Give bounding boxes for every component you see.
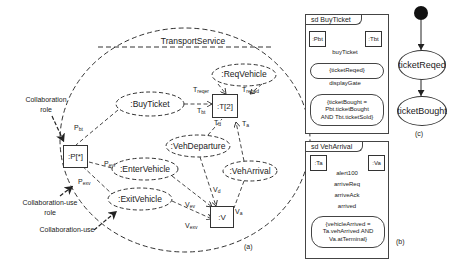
role-p-evl: Pevl: [104, 160, 115, 168]
req-vehicle-label[interactable]: :ReqVehicle: [221, 70, 266, 79]
part-passenger[interactable]: :P[*]: [63, 145, 88, 168]
role-t-bt: Tbt: [197, 107, 205, 115]
lifeline-ta[interactable]: :Ta: [310, 155, 327, 171]
role-t-reqer: Treqer: [193, 86, 209, 94]
msg-buy-ticket: buyTicket: [332, 49, 357, 55]
caption-a: (a): [244, 243, 253, 250]
role-p-exv: Pexv: [78, 178, 90, 186]
caption-b: (b): [396, 238, 405, 245]
lifeline-pbt[interactable]: :Pbt: [309, 31, 326, 47]
annotation-collaboration-role: Collaboration role: [25, 96, 66, 113]
msg-arrived: arrived: [338, 203, 356, 209]
buy-ticket-label[interactable]: :BuyTicket: [130, 100, 169, 109]
role-v-d: Vd: [213, 186, 220, 194]
sd-veh-arrival-label: sd VehArrival: [306, 142, 363, 152]
lifeline-tbt[interactable]: :Tbt: [365, 31, 382, 47]
collaboration-name: TransportService: [161, 37, 225, 46]
initial-state: [414, 6, 428, 20]
msg-alert100: alert100: [336, 170, 358, 176]
role-v-ev: Vev: [185, 201, 195, 209]
role-t-reqed: Treqed: [242, 86, 259, 94]
lifeline-va[interactable]: :Va: [368, 155, 385, 171]
state-ticket-bought-inv: {ticketBought = Pbt.ticketBought AND Tbt…: [310, 94, 384, 126]
msg-arrive-ack: arriveAck: [334, 192, 359, 198]
role-t-d: Td: [214, 119, 221, 127]
caption-c: (c): [415, 130, 423, 137]
veh-arrival-label[interactable]: :VehArrival: [229, 167, 270, 176]
part-terminal[interactable]: :T[2]: [212, 94, 238, 118]
enter-vehicle-label[interactable]: :EnterVehicle: [120, 165, 170, 174]
state-ticket-bought[interactable]: ticketBought: [397, 96, 447, 126]
annotation-collaboration-use: Collaboration-use: [40, 226, 95, 233]
role-v-a: Va: [235, 208, 242, 216]
exit-vehicle-label[interactable]: :ExitVehicle: [118, 195, 162, 204]
msg-arrive-req: arriveReq: [334, 181, 360, 187]
state-ticket-reqed[interactable]: ticketReqed: [398, 50, 446, 80]
role-p-bt: Pbt: [74, 124, 83, 132]
role-t-a: Ta: [242, 120, 249, 128]
sd-buy-ticket-label: sd BuyTicket: [306, 15, 362, 25]
role-v-exv: Vexv: [185, 222, 197, 230]
msg-display-gate: displayGate: [329, 80, 361, 86]
veh-departure-label[interactable]: :VehDeparture: [171, 142, 226, 151]
state-ticket-reqed-inv: {ticketReqed}: [310, 63, 384, 79]
state-vehicle-arrived-inv: {vehicleArrived = Ta.vehArrived AND Va.a…: [311, 216, 385, 248]
annotation-collaboration-use-role: Collaboration-use role: [23, 199, 78, 216]
part-vehicle[interactable]: :V: [210, 206, 234, 228]
